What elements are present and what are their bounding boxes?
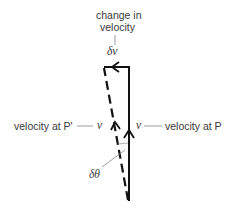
velocity-at-p-label: velocity at P — [165, 121, 222, 132]
velocity-at-p-prime-vector — [104, 68, 128, 200]
delta-v-label: δv — [107, 46, 117, 58]
angle-mark — [118, 143, 128, 144]
velocity-at-p-prime-label: velocity at P' — [14, 121, 73, 132]
v-right-label: v — [136, 120, 141, 132]
velocity-label: velocity — [100, 22, 135, 33]
delta-theta-label: δθ — [89, 169, 100, 181]
change-in-label: change in — [96, 10, 142, 21]
v-left-label: v — [97, 120, 102, 132]
